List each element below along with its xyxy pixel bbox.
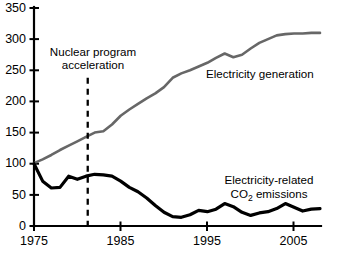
y-tick-label-250: 250	[5, 63, 26, 77]
chart-figure: 350 300 250 200 150 100 50 0 1975 1985 1…	[0, 0, 347, 263]
series-label-co2-line2: CO2 emissions	[231, 187, 308, 203]
x-tick-label-2005: 2005	[280, 234, 308, 248]
co2-label-pre: CO	[231, 187, 248, 200]
annotation-label-line1: Nuclear program	[50, 45, 136, 58]
x-tick-label-1995: 1995	[193, 234, 221, 248]
x-tick-label-1985: 1985	[107, 234, 135, 248]
y-tick-label-100: 100	[5, 156, 26, 170]
y-tick-label-200: 200	[5, 94, 26, 108]
y-tick-label-350: 350	[5, 1, 26, 15]
y-tick-label-50: 50	[12, 188, 26, 202]
co2-label-post: emissions	[253, 187, 308, 200]
series-label-co2-emissions: Electricity-related CO2 emissions	[225, 173, 314, 203]
annotation-label-line2: acceleration	[62, 58, 125, 71]
series-label-co2-line1: Electricity-related	[225, 173, 314, 186]
line-chart: 350 300 250 200 150 100 50 0 1975 1985 1…	[0, 0, 347, 263]
y-tick-label-0: 0	[19, 219, 26, 233]
x-tick-label-1975: 1975	[20, 234, 48, 248]
y-tick-label-300: 300	[5, 32, 26, 46]
series-label-electricity-generation: Electricity generation	[206, 67, 314, 80]
y-tick-label-150: 150	[5, 125, 26, 139]
